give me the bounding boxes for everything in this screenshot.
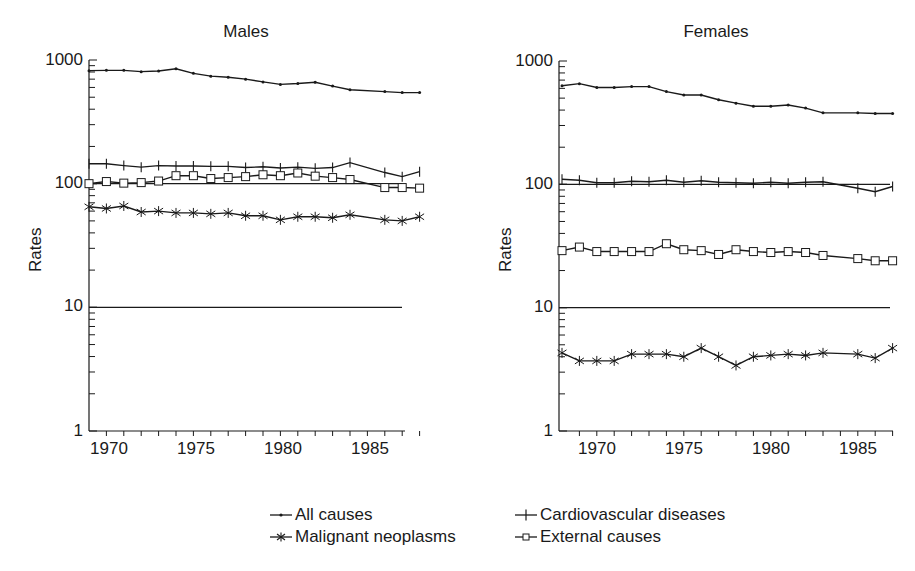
males-plot-area [85,60,425,436]
square-marker-icon [515,530,537,544]
males-panel-title: Males [146,22,346,42]
legend-label: Malignant neoplasms [295,527,456,547]
females-series-all-causes [561,82,895,115]
females-series-external-causes [558,240,897,265]
males-ytick-1000: 1000 [23,50,83,70]
females-ytick-10: 10 [493,297,553,317]
females-series-malignant-neoplasms [558,343,898,370]
males-y-axis-label: Rates [26,228,46,272]
asterisk-marker-icon [270,530,292,544]
females-ytick-1: 1 [493,421,553,441]
males-ytick-10: 10 [23,296,83,316]
males-series-all-causes [88,67,422,94]
plus-marker-icon [515,508,537,522]
males-xtick-1970: 1970 [79,439,139,459]
legend-label: External causes [540,527,661,547]
legend-label: All causes [295,505,372,525]
females-ytick-1000: 1000 [493,51,553,71]
females-xtick-1980: 1980 [741,439,801,459]
females-panel-title: Females [616,22,816,42]
males-xtick-1980: 1980 [253,439,313,459]
males-xtick-1975: 1975 [166,439,226,459]
females-xtick-1970: 1970 [567,439,627,459]
females-xtick-1985: 1985 [828,439,888,459]
males-series-external-causes [85,169,424,192]
males-ytick-100: 100 [23,173,83,193]
females-y-axis-label: Rates [496,228,516,272]
chart-canvas [0,0,915,571]
males-xtick-1985: 1985 [340,439,400,459]
males-series-malignant-neoplasms [85,201,425,226]
females-xtick-1975: 1975 [654,439,714,459]
females-ytick-100: 100 [493,174,553,194]
dot-marker-icon [270,508,292,522]
females-plot-area [558,61,898,436]
males-series-cardiovascular-diseases [89,158,420,182]
females-series-cardiovascular-diseases [562,174,893,197]
males-ytick-1: 1 [23,421,83,441]
legend-label: Cardiovascular diseases [540,505,725,525]
